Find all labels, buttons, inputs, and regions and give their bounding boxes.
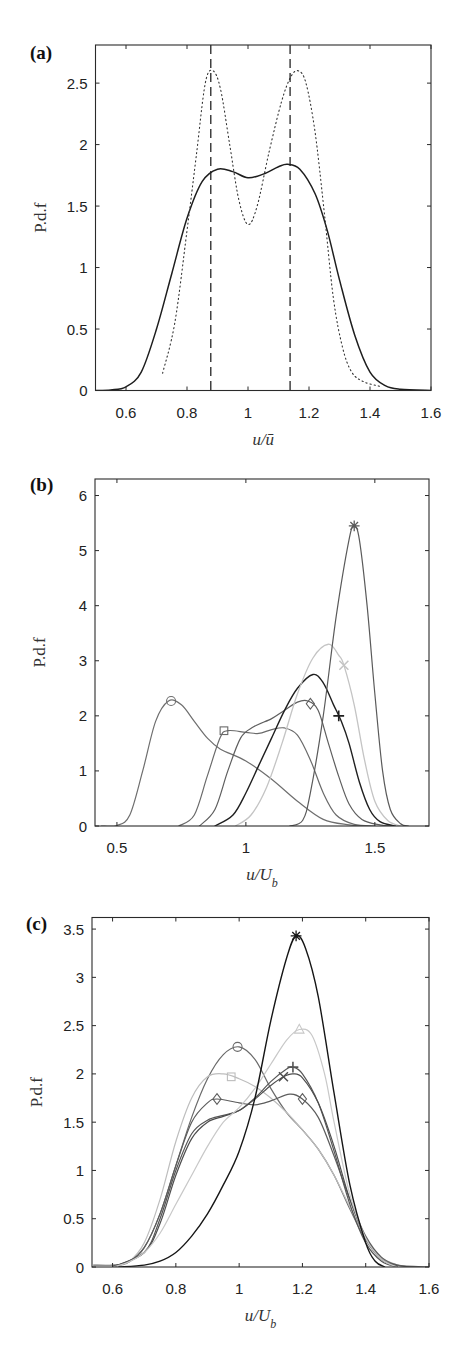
y-tick-label: 0.5 <box>67 321 88 338</box>
y-tick-label: 1 <box>79 259 87 276</box>
plus-marker <box>288 1062 299 1073</box>
asterisk-marker <box>291 930 302 941</box>
chart-panel-b: 0.511.50123456u/UbP.d.f <box>30 479 429 890</box>
y-tick-label: 1.5 <box>63 1114 84 1131</box>
x-tick-label: 1.2 <box>299 404 320 421</box>
panel-label-b: (b) <box>30 474 53 496</box>
x-tick-label: 1 <box>244 404 252 421</box>
plot-area <box>94 935 429 1267</box>
plot-area <box>101 526 408 827</box>
x-tick-label: 1.6 <box>419 1280 440 1297</box>
y-tick-label: 2 <box>79 136 87 153</box>
axes-box <box>96 45 432 391</box>
series-plus-line <box>215 674 396 826</box>
x-axis-label: u/Ub <box>245 1306 277 1331</box>
series-solid-line <box>96 164 432 390</box>
series-circle-line <box>101 700 364 826</box>
y-tick-label: 3.5 <box>63 921 84 938</box>
x-tick-label: 1.4 <box>355 1280 376 1297</box>
x-axis-label: u/Ub <box>246 865 278 890</box>
y-tick-label: 6 <box>79 487 87 504</box>
plus-marker <box>333 710 344 721</box>
series-dotted-line <box>163 70 383 387</box>
plot-canvas: 0.60.811.21.41.600.511.522.5u/ūP.d.f 0.5… <box>0 0 459 1351</box>
x-tick-label: 0.5 <box>106 839 127 856</box>
series-square-line <box>179 728 375 826</box>
x-marker <box>279 1072 288 1081</box>
y-tick-label: 2 <box>76 1065 84 1082</box>
series-square-line <box>113 1074 398 1267</box>
figure: (a) (b) (c) 0.60.811.21.41.600.511.522.5… <box>0 0 459 1351</box>
x-tick-label: 1.5 <box>364 839 385 856</box>
y-tick-label: 3 <box>76 969 84 986</box>
y-tick-label: 1 <box>76 1162 84 1179</box>
y-tick-label: 3 <box>79 652 87 669</box>
series-x-line <box>236 644 401 826</box>
panel-label-a: (a) <box>30 42 52 64</box>
y-tick-label: 0 <box>76 1259 84 1276</box>
series-x-line <box>113 1074 398 1267</box>
x-axis-label: u/ū <box>252 430 274 449</box>
chart-panel-c: 0.60.811.21.41.600.511.522.533.5u/UbP.d.… <box>27 918 439 1332</box>
y-tick-label: 0.5 <box>63 1210 84 1227</box>
x-tick-label: 1 <box>242 839 250 856</box>
series-diamond-line <box>113 1094 414 1267</box>
chart-panel-a: 0.60.811.21.41.600.511.522.5u/ūP.d.f <box>31 45 442 449</box>
x-tick-label: 1.4 <box>360 404 381 421</box>
x-tick-label: 1.6 <box>421 404 442 421</box>
x-tick-label: 0.8 <box>165 1280 186 1297</box>
x-tick-label: 0.6 <box>116 404 137 421</box>
y-tick-label: 0 <box>79 818 87 835</box>
plot-area <box>96 45 432 391</box>
x-tick-label: 0.6 <box>102 1280 123 1297</box>
y-tick-label: 2.5 <box>67 75 88 92</box>
y-tick-label: 0 <box>79 382 87 399</box>
y-tick-label: 4 <box>79 597 87 614</box>
asterisk-marker <box>349 520 360 531</box>
axes-box <box>95 479 429 826</box>
panel-label-c: (c) <box>26 913 47 935</box>
y-tick-label: 2 <box>79 707 87 724</box>
x-tick-label: 1.2 <box>292 1280 313 1297</box>
x-tick-label: 0.8 <box>177 404 198 421</box>
series-asterisk-line <box>290 526 409 826</box>
y-tick-label: 1.5 <box>67 198 88 215</box>
y-tick-label: 2.5 <box>63 1017 84 1034</box>
y-axis-label: P.d.f <box>30 637 49 668</box>
y-tick-label: 1 <box>79 762 87 779</box>
series-diamond-line <box>199 700 392 826</box>
x-marker <box>339 661 348 670</box>
y-axis-label: P.d.f <box>27 1077 46 1108</box>
y-tick-label: 5 <box>79 542 87 559</box>
x-tick-label: 1 <box>235 1280 243 1297</box>
y-axis-label: P.d.f <box>31 202 50 233</box>
